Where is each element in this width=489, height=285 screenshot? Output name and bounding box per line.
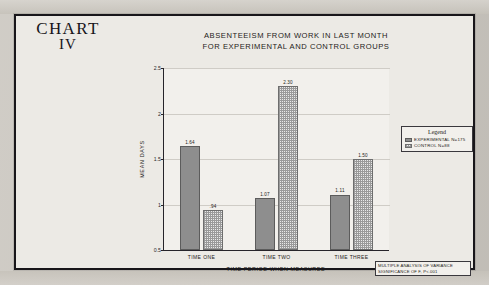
x-axis-tick-label: TIME THREE [334,254,368,260]
y-axis-tick-label: 1.5 [154,156,161,162]
bar [203,210,223,250]
bar-value-label: 1.11 [335,188,344,193]
y-axis-tick-label: 2.5 [154,65,161,71]
chart-title-line2: FOR EXPERIMENTAL AND CONTROL GROUPS [166,42,426,53]
y-axis-tick-label: 2 [158,111,161,117]
plot-area: 0.511.522.51.64.94TIME ONE1.072.30TIME T… [163,68,389,251]
legend-item-control: CONTROL N=88 [405,143,469,148]
x-axis-title: TIME PERIOD WHEN MEASURED [163,266,389,272]
bar [353,159,373,250]
gridline [164,114,390,115]
bar-value-label: 1.50 [358,153,368,158]
chart-number-line2: IV [22,37,114,52]
legend-label-control: CONTROL N=88 [414,143,450,148]
bar-value-label: .94 [210,204,217,209]
chart-number-line1: CHART [22,20,114,37]
y-axis-tick-label: 1 [158,202,161,208]
bar [278,86,298,250]
bar [330,195,350,251]
x-axis-tick-label: TIME TWO [262,254,290,260]
bar [255,198,275,250]
legend-item-experimental: EXPERIMENTAL N=175 [405,137,469,142]
bar-value-label: 1.07 [260,192,270,197]
y-axis-title: MEAN DAYS [139,140,145,178]
legend-swatch-control-icon [405,144,412,148]
legend-title: Legend [405,129,469,135]
y-axis-tick-label: 0.5 [154,247,161,253]
x-axis-tick-label: TIME ONE [188,254,215,260]
chart-card: CHART IV ABSENTEEISM FROM WORK IN LAST M… [14,14,475,270]
chart-title: ABSENTEEISM FROM WORK IN LAST MONTH FOR … [166,31,426,53]
legend-label-experimental: EXPERIMENTAL N=175 [414,137,465,142]
legend-box: Legend EXPERIMENTAL N=175 CONTROL N=88 [401,126,473,152]
chart-number-label: CHART IV [22,20,114,60]
bar-value-label: 2.30 [283,80,293,85]
y-axis-tick-mark [161,159,164,160]
y-axis-tick-mark [161,68,164,69]
y-axis-tick-mark [161,205,164,206]
bar [180,146,200,250]
chart-title-line1: ABSENTEEISM FROM WORK IN LAST MONTH [166,31,426,42]
scan-edge-top [0,0,489,14]
gridline [164,68,390,69]
legend-swatch-experimental-icon [405,138,412,142]
footnote-box: MULTIPLE ANALYSIS OF VARIANCE SIGNIFICAN… [375,261,471,276]
bar-value-label: 1.64 [185,140,195,145]
y-axis-tick-mark [161,250,164,251]
y-axis-tick-mark [161,114,164,115]
footnote-line2: SIGNIFICANCE OF F, P<.001 [378,269,468,275]
